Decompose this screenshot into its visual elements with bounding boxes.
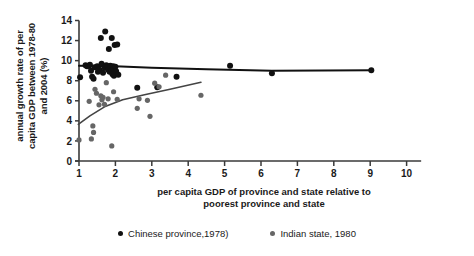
- data-point-china: [174, 74, 180, 80]
- x-axis-tick-label: 1: [76, 168, 82, 179]
- axis-layer: 0246810121412345678910: [61, 15, 421, 179]
- data-point-india: [87, 99, 92, 104]
- x-axis-label-line-1: per capita GDP of province and state rel…: [157, 186, 371, 197]
- x-axis-tick-label: 7: [295, 168, 301, 179]
- data-point-india: [91, 130, 96, 135]
- data-point-china: [269, 70, 275, 76]
- data-point-india: [163, 73, 168, 78]
- data-point-india: [135, 106, 140, 111]
- x-axis-tick-label: 9: [367, 168, 373, 179]
- x-axis-label-line-2: poorest province and state: [203, 198, 324, 209]
- x-axis-tick-label: 10: [401, 168, 413, 179]
- data-point-india: [152, 81, 157, 86]
- legend-item-india: Indian state, 1980: [270, 228, 356, 239]
- data-point-india: [96, 102, 101, 107]
- data-point-china: [368, 67, 374, 73]
- data-point-china: [114, 42, 120, 48]
- x-axis-tick-label: 3: [149, 168, 155, 179]
- x-axis-tick-label: 4: [185, 168, 191, 179]
- y-axis-tick-label: 0: [66, 156, 72, 167]
- data-point-china: [115, 72, 121, 78]
- legend-label-china: Chinese province,1978): [128, 228, 228, 239]
- y-axis-label-line-2: capita GDP between 1978-80: [26, 23, 37, 149]
- data-point-india: [102, 102, 107, 107]
- y-axis-label-line-1: annual growth rate of per: [14, 30, 25, 142]
- data-point-india: [109, 143, 114, 148]
- chart-figure: annual growth rate of per capita GDP bet…: [0, 0, 474, 256]
- data-point-china: [102, 29, 108, 35]
- data-point-china: [227, 63, 233, 69]
- x-axis-tick-label: 6: [258, 168, 264, 179]
- y-axis-tick-label: 12: [61, 35, 73, 46]
- data-point-india: [106, 96, 111, 101]
- legend-marker-india-icon: [270, 231, 275, 236]
- y-axis-tick-label: 2: [66, 136, 72, 147]
- data-point-india: [100, 95, 105, 100]
- data-point-india: [136, 96, 141, 101]
- y-axis-label-line-3: and 2004 (%): [38, 58, 49, 115]
- data-point-india: [94, 91, 99, 96]
- data-point-china: [134, 85, 140, 91]
- data-point-india: [111, 89, 116, 94]
- data-point-india: [198, 93, 203, 98]
- y-axis-label: annual growth rate of per capita GDP bet…: [2, 6, 62, 166]
- data-point-india: [90, 123, 95, 128]
- trendline-layer: [78, 66, 372, 125]
- data-point-china: [98, 35, 104, 41]
- data-point-india: [115, 97, 120, 102]
- y-axis-tick-label: 6: [66, 95, 72, 106]
- data-point-india: [76, 137, 81, 142]
- y-axis-tick-label: 8: [66, 75, 72, 86]
- x-axis-tick-label: 5: [222, 168, 228, 179]
- x-axis-tick-label: 8: [331, 168, 337, 179]
- y-axis-tick-label: 14: [61, 15, 73, 26]
- trendline-china-trend: [79, 66, 372, 71]
- chart-legend: Chinese province,1978) Indian state, 198…: [0, 228, 474, 239]
- y-axis-tick-label: 4: [66, 115, 72, 126]
- data-point-china: [106, 46, 112, 52]
- data-points-layer: [76, 29, 374, 149]
- data-point-india: [104, 80, 109, 85]
- x-axis-tick-label: 2: [113, 168, 119, 179]
- data-point-china: [77, 74, 83, 80]
- scatter-plot-canvas: 0246810121412345678910: [0, 0, 474, 256]
- data-point-india: [145, 98, 150, 103]
- legend-item-china: Chinese province,1978): [118, 228, 228, 239]
- data-point-china: [91, 76, 97, 82]
- data-point-india: [89, 136, 94, 141]
- data-point-china: [109, 35, 115, 41]
- y-axis-tick-label: 10: [61, 55, 73, 66]
- data-point-india: [147, 114, 152, 119]
- data-point-india: [156, 84, 161, 89]
- legend-label-india: Indian state, 1980: [280, 228, 356, 239]
- x-axis-label: per capita GDP of province and state rel…: [79, 186, 449, 210]
- legend-marker-china-icon: [118, 231, 123, 236]
